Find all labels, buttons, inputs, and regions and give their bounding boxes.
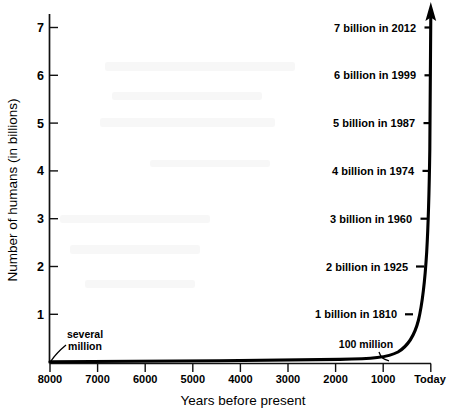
annotation-5-billion: 5 billion in 1987: [333, 117, 415, 129]
x-ticks: [50, 364, 431, 373]
y-tick-label-7: 7: [37, 21, 44, 35]
y-axis-title: Number of humans (in billions): [5, 98, 20, 281]
x-axis-title: Years before present: [181, 393, 306, 408]
x-tick-label-3000: 3000: [276, 373, 300, 385]
x-tick-label-7000: 7000: [85, 373, 109, 385]
annotation-1-billion: 1 billion in 1810: [315, 308, 397, 320]
callout-million-label: million: [68, 340, 102, 352]
x-tick-label-6000: 6000: [133, 373, 157, 385]
y-tick-label-2: 2: [37, 260, 44, 274]
callout-several-label: several: [67, 328, 103, 340]
annotation-6-billion: 6 billion in 1999: [334, 69, 416, 81]
x-tick-label-4000: 4000: [228, 373, 252, 385]
x-tick-label-2000: 2000: [323, 373, 347, 385]
callout-several-million-leader: [51, 345, 66, 361]
annotation-4-billion: 4 billion in 1974: [332, 165, 415, 177]
population-growth-chart: 7 6 5 4 3 2 1 Number of humans (in billi…: [0, 0, 450, 414]
x-tick-label-5000: 5000: [181, 373, 205, 385]
y-ticks: [50, 28, 59, 315]
annotation-7-billion: 7 billion in 2012: [334, 22, 416, 34]
y-tick-label-5: 5: [37, 117, 44, 131]
y-tick-label-4: 4: [37, 164, 44, 178]
y-tick-label-6: 6: [37, 69, 44, 83]
annotation-3-billion: 3 billion in 1960: [330, 213, 412, 225]
x-tick-label-8000: 8000: [38, 373, 62, 385]
annotation-2-billion: 2 billion in 1925: [326, 261, 408, 273]
y-tick-label-3: 3: [37, 212, 44, 226]
x-tick-label-today: Today: [414, 373, 446, 385]
y-tick-label-1: 1: [37, 308, 44, 322]
chart-svg: 7 6 5 4 3 2 1 Number of humans (in billi…: [0, 0, 450, 414]
x-tick-label-1000: 1000: [371, 373, 395, 385]
callout-100-million-label: 100 million: [339, 338, 393, 350]
